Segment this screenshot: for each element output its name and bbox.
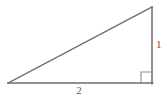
hypotenuse-line bbox=[8, 7, 152, 83]
base-length-label: 2 bbox=[72, 85, 86, 96]
right-angle-marker-icon bbox=[141, 72, 152, 83]
right-triangle-figure: 2 1 bbox=[0, 0, 167, 99]
vertical-leg-length-label: 1 bbox=[156, 39, 166, 50]
